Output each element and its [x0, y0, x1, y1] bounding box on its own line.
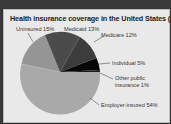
- label-employer-insured: Employer-insured 54%: [101, 102, 158, 108]
- label-other-public-line1: Other public: [115, 75, 145, 81]
- label-individual: Individual 5%: [112, 60, 145, 66]
- label-uninsured: Uninsured 15%: [16, 26, 54, 32]
- label-medicare: Medicare 12%: [101, 32, 137, 38]
- label-other-public-line2: insurance 1%: [115, 82, 149, 88]
- pie-chart: Uninsured 15% Medicaid 13% Medicare 12% …: [0, 0, 171, 124]
- label-medicaid: Medicaid 13%: [64, 26, 99, 32]
